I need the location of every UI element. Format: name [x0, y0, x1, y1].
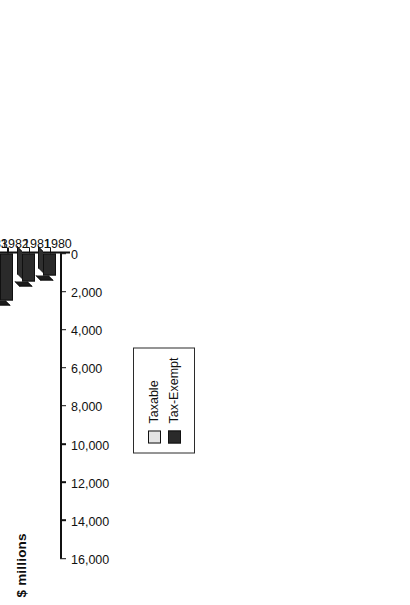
bar-1980 — [43, 253, 56, 275]
value-tick — [60, 557, 66, 558]
legend-swatch-taxable — [148, 430, 161, 443]
legend-item-taxable: Taxable — [147, 357, 161, 443]
value-tick-label: 14,000 — [71, 514, 109, 528]
legend-label-taxable: Taxable — [147, 380, 161, 423]
value-tick-label: 0 — [71, 247, 78, 261]
legend-swatch-tax-exempt — [168, 430, 181, 443]
value-tick-label: 6,000 — [71, 361, 102, 375]
category-label: 1983 — [0, 236, 8, 250]
bar-1981 — [22, 253, 35, 281]
bar-front-face — [0, 253, 13, 300]
value-tick — [60, 481, 66, 482]
value-tick-label: 12,000 — [71, 476, 109, 490]
value-tick — [60, 519, 66, 520]
value-tick-label: 10,000 — [71, 438, 109, 452]
plot-area: 02,0004,0006,0008,00010,00012,00014,0001… — [60, 253, 378, 558]
value-axis-title: $ millions — [14, 533, 29, 597]
chart-legend: Taxable Tax-Exempt — [133, 347, 195, 453]
value-tick — [60, 443, 66, 444]
chart-stage: $ millions 02,0004,0006,0008,00010,00012… — [0, 0, 410, 605]
bar-side-face — [0, 300, 11, 305]
value-tick — [60, 252, 66, 253]
value-tick — [60, 329, 66, 330]
legend-item-tax-exempt: Tax-Exempt — [167, 357, 181, 443]
bar-side-face — [14, 281, 32, 286]
value-tick — [60, 405, 66, 406]
bar-side-face — [35, 275, 53, 280]
value-tick-label: 2,000 — [71, 285, 102, 299]
bar-front-face — [43, 253, 56, 275]
bar-front-face — [22, 253, 35, 281]
bar-1982 — [0, 253, 13, 300]
value-tick-label: 16,000 — [71, 552, 109, 566]
legend-label-tax-exempt: Tax-Exempt — [167, 357, 181, 423]
value-tick-label: 8,000 — [71, 400, 102, 414]
value-tick — [60, 290, 66, 291]
value-tick-label: 4,000 — [71, 323, 102, 337]
value-tick — [60, 367, 66, 368]
